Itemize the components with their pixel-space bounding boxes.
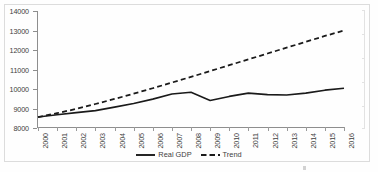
legend-swatch-solid-icon bbox=[136, 152, 155, 158]
chart-figure: 800090001000011000120001300014000 200020… bbox=[0, 0, 378, 172]
legend-swatch-dashed-icon bbox=[201, 152, 220, 158]
legend-label-trend: Trend bbox=[223, 150, 242, 159]
chart-plot-area bbox=[0, 0, 378, 172]
legend-item-trend[interactable]: Trend bbox=[201, 150, 242, 159]
legend-label-real-gdp: Real GDP bbox=[158, 150, 191, 159]
series-line-trend bbox=[38, 31, 344, 118]
series-line-real-gdp bbox=[38, 88, 344, 117]
footer-mark bbox=[303, 166, 306, 170]
chart-legend: Real GDP Trend bbox=[0, 150, 378, 159]
legend-item-real-gdp[interactable]: Real GDP bbox=[136, 150, 191, 159]
